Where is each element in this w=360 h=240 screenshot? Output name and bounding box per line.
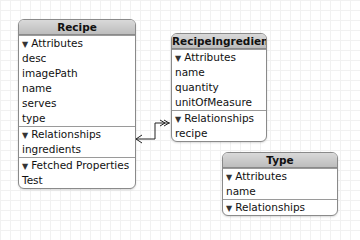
relationship-connector[interactable] <box>0 0 360 232</box>
connector-arrow-icon <box>136 120 170 143</box>
